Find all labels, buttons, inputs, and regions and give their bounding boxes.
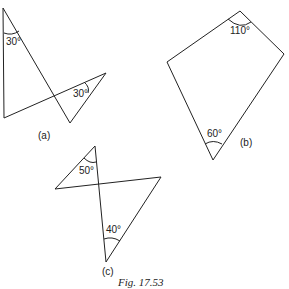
angle-arc-b2	[205, 142, 222, 145]
angle-label-c2: 40°	[106, 225, 121, 235]
part-label-b: (b)	[240, 138, 252, 148]
part-label-c: (c)	[102, 267, 114, 277]
angle-arc-c2	[104, 238, 120, 241]
angle-label-a2: 30°	[73, 89, 88, 99]
figure-canvas: 30° 30° (a) 110° 60° (b) 50° 40° (c) Fig…	[0, 0, 289, 289]
angle-label-b2: 60°	[207, 129, 222, 139]
figure-c-lines	[55, 146, 161, 262]
part-label-a: (a)	[38, 131, 50, 141]
angle-label-c1: 50°	[79, 166, 94, 176]
figure-caption: Fig. 17.53	[118, 276, 164, 288]
figure-a-lines	[3, 8, 106, 123]
angle-label-b1: 110°	[230, 26, 250, 36]
angle-arc-c1	[84, 158, 96, 163]
angle-label-a1: 30°	[6, 37, 21, 47]
figure-b-lines	[167, 11, 284, 160]
